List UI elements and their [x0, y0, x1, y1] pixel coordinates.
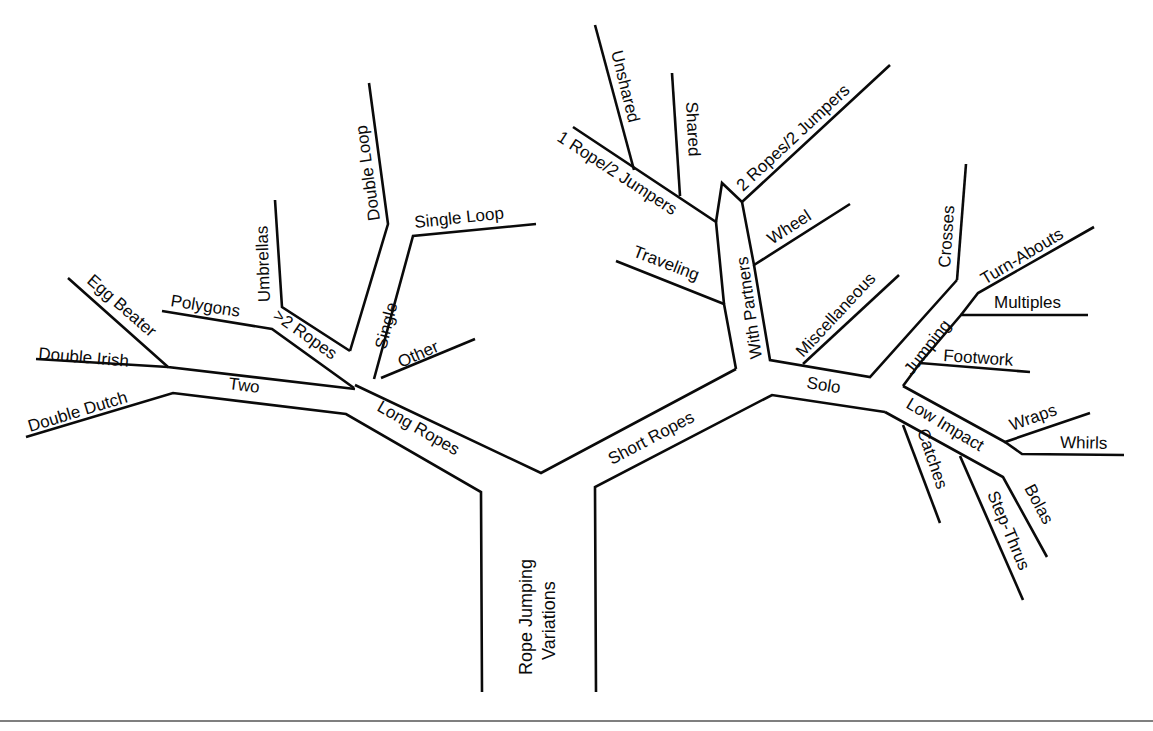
- traveling-line: [616, 261, 736, 369]
- labels: Rope Jumping Variations Long Ropes Two D…: [26, 48, 1108, 675]
- one-rope-two-jumpers-label: 1 Rope/2 Jumpers: [554, 127, 681, 219]
- multiples-label: Multiples: [994, 293, 1061, 312]
- other-label: Other: [395, 337, 442, 372]
- shared-label: Shared: [682, 101, 704, 157]
- two-label: Two: [228, 374, 261, 397]
- wraps-label: Wraps: [1007, 400, 1059, 435]
- step-thrus-label: Step-Thrus: [983, 488, 1033, 573]
- crosses-label: Crosses: [935, 205, 958, 269]
- polygons-label: Polygons: [169, 291, 241, 321]
- crosses-line: [957, 164, 966, 280]
- turn-abouts-label: Turn-Abouts: [977, 224, 1066, 288]
- traveling-label: Traveling: [631, 242, 703, 285]
- long-ropes-label: Long Ropes: [374, 397, 463, 459]
- shared-line: [672, 73, 680, 196]
- single-label: Single: [371, 301, 401, 351]
- short-ropes-label: Short Ropes: [605, 407, 697, 468]
- trunk: [26, 369, 885, 692]
- whirls-label: Whirls: [1060, 433, 1108, 453]
- umbrellas-label: Umbrellas: [252, 225, 274, 302]
- egg-beater-label: Egg Beater: [83, 271, 160, 341]
- double-irish-label: Double Irish: [38, 344, 130, 371]
- miscellaneous-label: Miscellaneous: [792, 269, 879, 361]
- solo-branch: [803, 164, 1124, 600]
- two-ropes-two-jumpers-label: 2 Ropes/2 Jumpers: [733, 80, 854, 194]
- trunk-left-outline: [26, 393, 482, 692]
- two-ropes-line: [716, 65, 890, 222]
- root-label-line2: Variations: [539, 581, 559, 660]
- rope-jumping-tree-diagram: Rope Jumping Variations Long Ropes Two D…: [0, 0, 1153, 731]
- solo-label: Solo: [805, 373, 842, 397]
- double-loop-label: Double Loop: [352, 124, 384, 222]
- root-label-line1: Rope Jumping: [516, 559, 536, 675]
- long-ropes-branch: [36, 83, 536, 389]
